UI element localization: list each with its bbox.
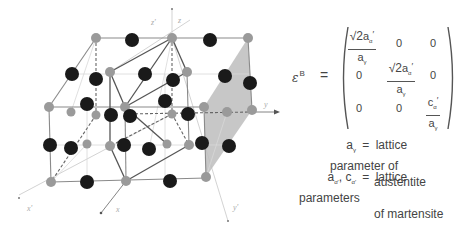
matrix-cell-2-1: 0 [352,69,366,81]
y-axis-arrow-icon [274,110,280,115]
x-axis-end-dot [100,212,103,215]
matrix-cell-1-1: √2aα′ aγ [344,28,380,69]
x-prime-axis-end-dot [18,197,20,199]
matrix-cell-3-3: cα′ aγ [420,94,446,135]
axis-label-z: z [177,16,182,25]
right-paren-icon [446,26,458,130]
z-prime-axis-line [110,20,190,72]
axis-label-z-prime: z' [150,18,156,27]
matrix-cell-2-2: √2aα′ aγ [382,60,420,101]
legend-description-cont: of martensite [374,207,443,221]
axis-label-y: y [263,100,268,109]
axis-label-x: x [115,205,120,214]
crystal-lattice-diagram: z' z y x' x y' [0,0,290,231]
gray-atoms [44,33,257,187]
matrix-cell-3-2: 0 [392,102,406,114]
x-axis-line [101,181,126,213]
y-prime-axis-end-dot [227,220,229,222]
strain-symbol: εB [292,69,305,85]
legend-symbol-a-gamma: aγ [330,137,356,158]
legend-martensite: aα′, cα′ = lattice parameters of martens… [299,169,465,222]
z-axis-end-dot [171,8,173,10]
legend-symbol-a-c-alpha: aα′, cα′ [299,169,356,190]
matrix-cell-1-3: 0 [426,37,440,49]
matrix-cell-1-2: 0 [392,37,406,49]
equals-sign: = [320,67,328,83]
bain-strain-equation: εB = √2aα′ aγ 0 0 0 √2aα′ aγ 0 0 0 cα′ a… [286,24,465,132]
matrix-cell-3-1: 0 [352,102,366,114]
axis-label-y-prime: y' [232,203,239,212]
matrix-cell-2-3: 0 [426,69,440,81]
axis-label-x-prime: x' [26,204,33,213]
